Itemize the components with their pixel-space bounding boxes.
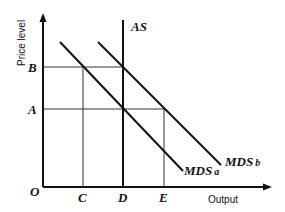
x-axis-title: Output: [208, 194, 238, 205]
y-axis-arrow-icon: [40, 13, 47, 22]
origin-label: O: [30, 184, 40, 199]
mds-a-label: MDSa: [183, 163, 219, 178]
y-axis-title: Price level: [16, 20, 27, 66]
diagram: Price level Output O B A C D E AS MDSa M…: [0, 0, 285, 212]
mds-b-label: MDSb: [224, 154, 260, 169]
tick-E: E: [158, 190, 168, 205]
tick-D: D: [117, 190, 128, 205]
mds-a-curve: [60, 42, 183, 171]
tick-A: A: [27, 102, 37, 117]
x-axis-arrow-icon: [263, 184, 272, 191]
as-label: AS: [130, 19, 147, 34]
tick-C: C: [78, 190, 87, 205]
tick-B: B: [27, 60, 37, 75]
